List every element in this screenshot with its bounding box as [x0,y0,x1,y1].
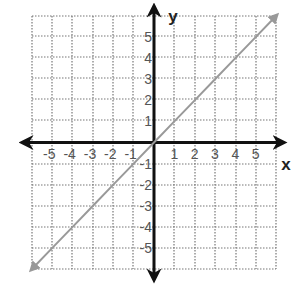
x-tick-label: -5 [43,146,56,162]
x-tick-label: -4 [63,146,76,162]
coordinate-plane: -5-4-3-2-11234554321-1-2-3-4-5 xy [0,0,297,285]
x-tick-label: 4 [231,146,239,162]
y-tick-label: 2 [144,92,152,108]
y-tick-label: 3 [144,71,152,87]
y-tick-label: -3 [140,198,153,214]
axis-labels: xy [168,7,291,174]
y-tick-label: 5 [144,29,152,45]
x-tick-label: -3 [84,146,97,162]
x-tick-label: 3 [211,146,219,162]
x-axis-label: x [281,155,291,174]
y-tick-label: -1 [140,156,153,172]
x-tick-label: -1 [124,146,137,162]
y-tick-label: -4 [140,219,153,235]
x-tick-label: 2 [191,146,199,162]
y-tick-label: 1 [144,113,152,129]
x-tick-label: 1 [170,146,178,162]
x-tick-label: -2 [104,146,117,162]
x-tick-label: 5 [252,146,260,162]
y-axis-label: y [168,7,178,26]
y-tick-label: -5 [140,240,153,256]
y-tick-label: 4 [144,50,152,66]
y-tick-label: -2 [140,177,153,193]
